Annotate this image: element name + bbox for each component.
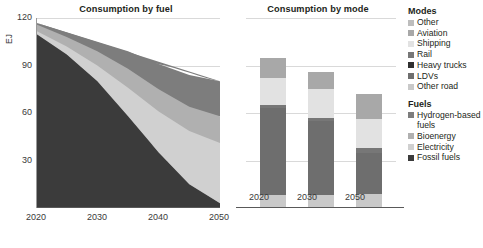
area-chart-plot (36, 18, 220, 208)
area-ytick-90: 90 (2, 61, 32, 70)
area-ytick-120: 120 (2, 13, 32, 22)
bar-segment-shipping (308, 89, 334, 118)
legend-item-bioenergy[interactable]: Bioenergy (408, 131, 483, 141)
bar-chart-panel: Consumption by mode (232, 0, 404, 248)
legend-label-ldvs: LDVs (417, 71, 438, 81)
bar-chart-title: Consumption by mode (232, 4, 404, 14)
legend-label-other-road: Other road (417, 81, 458, 91)
area-xtick-2030: 2030 (77, 212, 117, 222)
area-x-axis (36, 207, 220, 208)
legend-label-electricity: Electricity (417, 142, 454, 152)
bar-segment-shipping (260, 78, 286, 105)
legend-item-rail[interactable]: Rail (408, 49, 483, 59)
area-chart-panel: Consumption by fuel EJ 120 90 60 30 (0, 0, 232, 248)
legend-swatch-rail (408, 52, 414, 58)
area-xtick-2020: 2020 (16, 212, 56, 222)
bar-column-2020 (260, 58, 286, 208)
legend-group-spacer (408, 92, 483, 99)
bar-segment-ldvs (356, 153, 382, 194)
legend-swatch-fossil-fuels (408, 155, 414, 161)
bar-segment-aviation (308, 72, 334, 89)
legend-swatch-heavy-trucks (408, 62, 414, 68)
legend-label-other: Other (417, 17, 439, 27)
bar-segment-ldvs (308, 121, 334, 195)
bar-xtick-2030: 2030 (284, 192, 330, 202)
legend-swatch-other-road (408, 84, 414, 90)
legend-swatch-shipping (408, 41, 414, 47)
legend-label-fossil-fuels: Fossil fuels (417, 152, 460, 162)
legend-item-other-road[interactable]: Other road (408, 81, 483, 91)
legend-item-shipping[interactable]: Shipping (408, 38, 483, 48)
legend-swatch-bioenergy (408, 133, 414, 139)
area-chart-title: Consumption by fuel (26, 4, 226, 14)
area-y-axis (36, 18, 37, 208)
bar-column-2030 (308, 72, 334, 208)
legend-swatch-aviation (408, 30, 414, 36)
bar-chart-plot (246, 18, 396, 208)
legend-item-heavy-trucks[interactable]: Heavy trucks (408, 60, 483, 70)
legend-label-rail: Rail (417, 49, 432, 59)
legend-item-electricity[interactable]: Electricity (408, 142, 483, 152)
bar-xtick-2050: 2050 (332, 192, 378, 202)
bar-segment-ldvs (260, 108, 286, 195)
area-chart-series-svg (36, 18, 220, 208)
bar-segment-aviation (260, 58, 286, 79)
legend: Modes Other Aviation Shipping Rail Heavy… (408, 6, 483, 246)
legend-swatch-ldvs (408, 73, 414, 79)
area-ytick-60: 60 (2, 108, 32, 117)
legend-swatch-hydrogen-based-fuels (408, 112, 414, 118)
bar-segment-shipping (356, 119, 382, 148)
legend-label-shipping: Shipping (417, 38, 450, 48)
bar-segment-aviation (356, 94, 382, 119)
legend-label-hydrogen-based-fuels: Hydrogen-based fuels (417, 110, 483, 130)
legend-label-heavy-trucks: Heavy trucks (417, 60, 467, 70)
legend-heading-modes: Modes (408, 6, 483, 16)
legend-item-other[interactable]: Other (408, 17, 483, 27)
legend-item-aviation[interactable]: Aviation (408, 28, 483, 38)
legend-item-ldvs[interactable]: LDVs (408, 71, 483, 81)
area-stack (36, 23, 220, 208)
legend-heading-fuels: Fuels (408, 99, 483, 109)
legend-item-fossil-fuels[interactable]: Fossil fuels (408, 152, 483, 162)
legend-label-bioenergy: Bioenergy (417, 131, 456, 141)
figure-root: Consumption by fuel EJ 120 90 60 30 (0, 0, 483, 248)
legend-swatch-other (408, 20, 414, 26)
legend-label-aviation: Aviation (417, 28, 447, 38)
bar-xtick-2020: 2020 (236, 192, 282, 202)
bar-gridline-120 (246, 18, 396, 19)
legend-swatch-electricity (408, 144, 414, 150)
bar-column-2050 (356, 94, 382, 208)
area-chart-y-axis-label: EJ (4, 27, 14, 51)
bar-x-axis (236, 207, 404, 208)
legend-item-hydrogen-based-fuels[interactable]: Hydrogen-based fuels (408, 110, 483, 130)
area-ytick-30: 30 (2, 156, 32, 165)
area-xtick-2040: 2040 (138, 212, 178, 222)
